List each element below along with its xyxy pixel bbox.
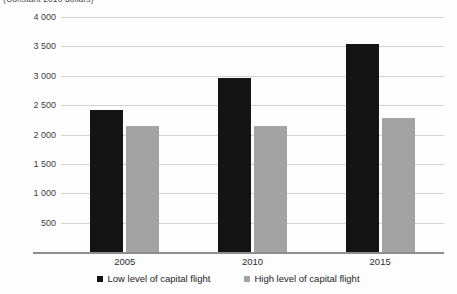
- y-axis-tick-label: 1 000: [4, 188, 56, 198]
- chart-subtitle: (Constant 2010 dollars): [3, 0, 94, 4]
- legend-label: Low level of capital flight: [107, 273, 210, 284]
- plot-area: [61, 17, 444, 252]
- gridline: [61, 105, 444, 106]
- legend-swatch-icon: [244, 276, 250, 282]
- gridline: [61, 76, 444, 77]
- y-axis-tick-label: 2 000: [4, 130, 56, 140]
- bar-2010-high: [254, 126, 287, 252]
- gridline: [61, 46, 444, 47]
- bar-2015-high: [382, 118, 415, 252]
- y-axis-tick-label: 3 500: [4, 41, 56, 51]
- legend-swatch-icon: [97, 276, 103, 282]
- y-axis-tick-labels: 5001 0001 5002 0002 5003 0003 5004 000: [0, 17, 56, 252]
- y-axis-tick-label: 2 500: [4, 100, 56, 110]
- chart-legend: Low level of capital flightHigh level of…: [0, 273, 457, 284]
- y-axis-tick-label: 1 500: [4, 159, 56, 169]
- bar-2010-low: [218, 78, 251, 252]
- x-axis-tick-label: 2015: [370, 256, 391, 267]
- bar-2015-low: [346, 44, 379, 252]
- x-axis-tick-labels: 200520102015: [61, 256, 444, 270]
- x-axis-tick-label: 2010: [242, 256, 263, 267]
- x-axis-line: [33, 252, 444, 254]
- bar-2005-low: [90, 110, 123, 252]
- legend-item[interactable]: High level of capital flight: [244, 273, 359, 284]
- y-axis-tick-label: 500: [4, 218, 56, 228]
- y-axis-tick-label: 3 000: [4, 71, 56, 81]
- legend-label: High level of capital flight: [254, 273, 359, 284]
- bar-2005-high: [126, 126, 159, 252]
- chart-figure: (Constant 2010 dollars) 5001 0001 5002 0…: [0, 0, 457, 294]
- legend-item[interactable]: Low level of capital flight: [97, 273, 210, 284]
- y-axis-tick-label: 4 000: [4, 12, 56, 22]
- x-axis-tick-label: 2005: [114, 256, 135, 267]
- gridline: [61, 17, 444, 18]
